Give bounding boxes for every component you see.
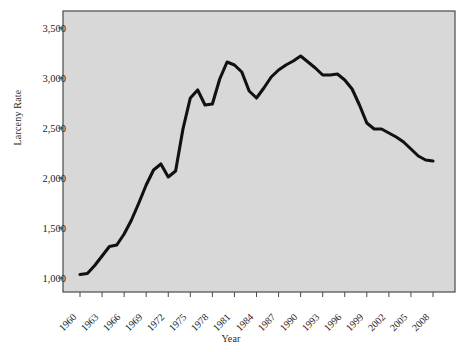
- y-tick-label: 1,500: [6, 223, 66, 234]
- y-tick-label: 3,500: [6, 23, 66, 34]
- x-axis-title: Year: [0, 333, 462, 344]
- y-axis-tick-marks: [58, 28, 63, 278]
- chart-canvas: [0, 0, 462, 352]
- x-axis-tick-marks: [80, 292, 433, 297]
- y-tick-label: 1,000: [6, 273, 66, 284]
- larceny-rate-line-chart: 1,0001,5002,0002,5003,0003,500 196019631…: [0, 0, 462, 352]
- plot-area-background: [63, 11, 455, 292]
- y-axis-title: Larceny Rate: [12, 53, 23, 183]
